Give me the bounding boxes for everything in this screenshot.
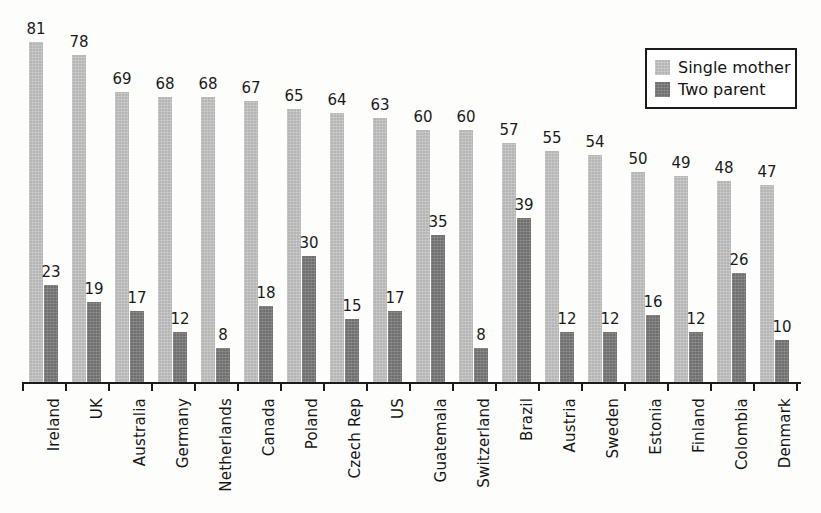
- single-mother-swatch-icon: [655, 60, 670, 75]
- category-label-colombia: Colombia: [733, 398, 751, 470]
- axis-tick: [237, 382, 239, 391]
- bar-value-label: 50: [624, 152, 652, 167]
- bar-value-label: 10: [768, 320, 796, 335]
- x-axis-line: [22, 382, 801, 384]
- axis-tick: [194, 382, 196, 391]
- bar-two-colombia: [732, 273, 746, 382]
- category-label-estonia: Estonia: [647, 398, 665, 455]
- bar-two-czech-rep: [345, 319, 359, 382]
- bar-value-label: 78: [65, 35, 93, 50]
- bar-value-label: 12: [166, 312, 194, 327]
- two-parent-swatch-icon: [655, 82, 670, 97]
- bar-value-label: 48: [710, 161, 738, 176]
- bar-two-austria: [560, 332, 574, 382]
- bar-two-switzerland: [474, 348, 488, 382]
- legend-label-single-mother: Single mother: [678, 58, 790, 77]
- bar-single-us: [373, 118, 387, 382]
- bar-value-label: 55: [538, 131, 566, 146]
- bar-value-label: 12: [682, 312, 710, 327]
- bar-value-label: 16: [639, 295, 667, 310]
- bar-value-label: 12: [553, 312, 581, 327]
- category-label-austria: Austria: [561, 398, 579, 452]
- bar-value-label: 47: [753, 165, 781, 180]
- bar-value-label: 68: [151, 77, 179, 92]
- category-label-brazil: Brazil: [518, 398, 536, 441]
- bar-value-label: 64: [323, 93, 351, 108]
- category-label-uk: UK: [88, 398, 106, 419]
- bar-two-guatemala: [431, 235, 445, 382]
- axis-tick: [710, 382, 712, 391]
- bar-value-label: 81: [22, 22, 50, 37]
- category-label-netherlands: Netherlands: [217, 398, 235, 492]
- bar-value-label: 26: [725, 253, 753, 268]
- bar-two-finland: [689, 332, 703, 382]
- bar-value-label: 68: [194, 77, 222, 92]
- category-label-sweden: Sweden: [604, 398, 622, 458]
- category-label-guatemala: Guatemala: [432, 398, 450, 482]
- bar-single-finland: [674, 176, 688, 382]
- category-label-switzerland: Switzerland: [475, 398, 493, 488]
- bar-value-label: 8: [209, 328, 237, 343]
- bar-value-label: 23: [37, 265, 65, 280]
- bar-single-austria: [545, 151, 559, 382]
- category-label-poland: Poland: [303, 398, 321, 449]
- bar-value-label: 60: [409, 110, 437, 125]
- legend-entry-single-mother: Single mother: [655, 56, 787, 78]
- axis-tick: [280, 382, 282, 391]
- bar-single-czech-rep: [330, 113, 344, 382]
- bar-two-brazil: [517, 218, 531, 382]
- axis-tick: [323, 382, 325, 391]
- category-label-australia: Australia: [131, 398, 149, 466]
- bar-single-estonia: [631, 172, 645, 382]
- bar-value-label: 15: [338, 299, 366, 314]
- bar-two-netherlands: [216, 348, 230, 382]
- category-label-canada: Canada: [260, 398, 278, 456]
- bar-value-label: 67: [237, 81, 265, 96]
- category-label-us: US: [389, 398, 407, 419]
- legend-entry-two-parent: Two parent: [655, 78, 787, 100]
- bar-two-denmark: [775, 340, 789, 382]
- bar-value-label: 17: [381, 291, 409, 306]
- bar-value-label: 54: [581, 135, 609, 150]
- bar-chart: 8123781969176812688671865306415631760356…: [0, 0, 821, 513]
- axis-tick: [452, 382, 454, 391]
- bar-single-ireland: [29, 42, 43, 382]
- axis-tick: [624, 382, 626, 391]
- category-label-ireland: Ireland: [45, 398, 63, 451]
- bar-value-label: 69: [108, 72, 136, 87]
- axis-tick: [581, 382, 583, 391]
- axis-tick: [495, 382, 497, 391]
- category-label-denmark: Denmark: [776, 398, 794, 468]
- axis-tick: [366, 382, 368, 391]
- chart-legend: Single mother Two parent: [645, 48, 797, 109]
- category-label-germany: Germany: [174, 398, 192, 468]
- bar-value-label: 19: [80, 282, 108, 297]
- bar-value-label: 8: [467, 328, 495, 343]
- bar-value-label: 35: [424, 215, 452, 230]
- bar-single-denmark: [760, 185, 774, 382]
- axis-tick: [22, 382, 24, 391]
- bar-value-label: 17: [123, 291, 151, 306]
- axis-tick: [796, 382, 798, 391]
- bar-two-germany: [173, 332, 187, 382]
- axis-tick: [538, 382, 540, 391]
- legend-label-two-parent: Two parent: [678, 80, 766, 99]
- x-axis-category-labels: IrelandUKAustraliaGermanyNetherlandsCana…: [0, 392, 821, 513]
- bar-two-sweden: [603, 332, 617, 382]
- axis-tick: [151, 382, 153, 391]
- bar-value-label: 18: [252, 286, 280, 301]
- bar-value-label: 12: [596, 312, 624, 327]
- bar-value-label: 30: [295, 236, 323, 251]
- bar-two-estonia: [646, 315, 660, 382]
- bar-value-label: 63: [366, 98, 394, 113]
- bar-single-germany: [158, 97, 172, 382]
- bar-single-sweden: [588, 155, 602, 382]
- bar-single-canada: [244, 101, 258, 382]
- axis-tick: [409, 382, 411, 391]
- bar-single-guatemala: [416, 130, 430, 382]
- bar-value-label: 49: [667, 156, 695, 171]
- bar-value-label: 60: [452, 110, 480, 125]
- bar-two-poland: [302, 256, 316, 382]
- category-label-finland: Finland: [690, 398, 708, 453]
- bar-two-uk: [87, 302, 101, 382]
